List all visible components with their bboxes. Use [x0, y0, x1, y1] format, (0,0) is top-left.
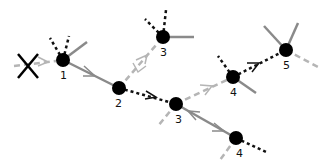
edge-2-3b — [119, 88, 176, 104]
node-5 — [279, 43, 293, 57]
node-4a-label: 4 — [230, 86, 237, 99]
node-4a — [226, 70, 240, 84]
node-3a-label: 3 — [160, 46, 167, 59]
node-3a — [156, 30, 170, 44]
node-2 — [112, 81, 126, 95]
blocked-entry — [14, 54, 56, 78]
edge-2-3a — [119, 37, 163, 88]
nodes — [56, 30, 293, 145]
edge-1-2 — [63, 60, 119, 88]
node-3a-stubs — [145, 10, 194, 37]
node-3b-label: 3 — [175, 113, 182, 126]
node-4b-stubs — [220, 138, 266, 160]
node-5-label: 5 — [283, 59, 290, 72]
node-5-stubs — [264, 23, 318, 67]
node-1-label: 1 — [60, 69, 67, 82]
edge-3b-4a — [176, 77, 233, 104]
edge-4a-5 — [233, 50, 286, 77]
network-diagram: 1 2 3 3 4 4 5 — [0, 0, 331, 168]
node-4b — [229, 131, 243, 145]
node-1 — [56, 53, 70, 67]
node-4b-label: 4 — [236, 147, 243, 160]
edge-3b-4b — [176, 104, 236, 138]
node-3b — [169, 97, 183, 111]
diagram-svg: 1 2 3 3 4 4 5 — [0, 0, 331, 168]
node-2-label: 2 — [115, 97, 122, 110]
